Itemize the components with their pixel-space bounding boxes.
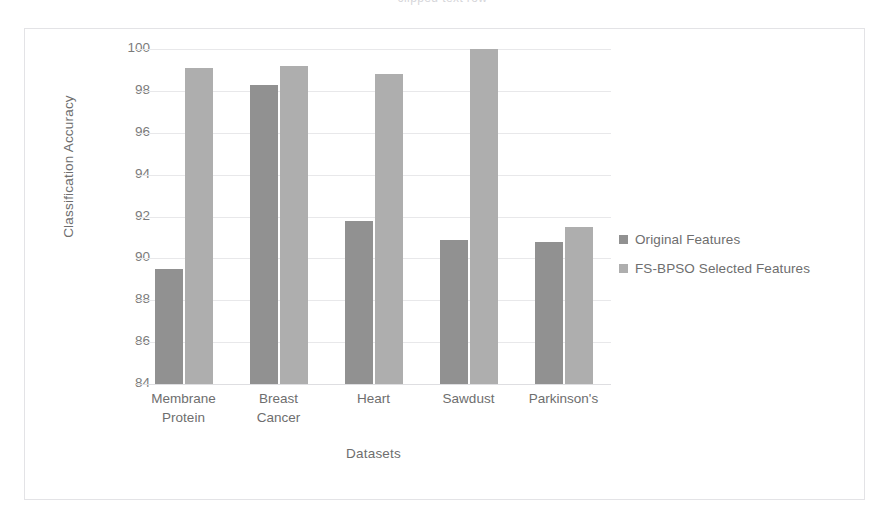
bar[interactable] [375, 74, 403, 384]
bar[interactable] [280, 66, 308, 384]
bar-group [326, 49, 421, 384]
bar[interactable] [440, 240, 468, 384]
legend-item[interactable]: Original Features [619, 225, 859, 254]
bar-group [421, 49, 516, 384]
bar[interactable] [470, 49, 498, 384]
bar[interactable] [345, 221, 373, 384]
x-axis-tick-label: Heart [326, 389, 421, 408]
gridline [136, 384, 611, 385]
plot-area [136, 49, 611, 384]
bar-group [516, 49, 611, 384]
bar[interactable] [250, 85, 278, 384]
bar-group [231, 49, 326, 384]
bar[interactable] [155, 269, 183, 384]
legend-swatch-icon [619, 264, 628, 273]
legend-label: Original Features [635, 232, 740, 247]
x-axis-tick-label: Membrane Protein [136, 389, 231, 427]
y-axis-title: Classification Accuracy [61, 62, 76, 272]
chart-legend: Original FeaturesFS-BPSO Selected Featur… [619, 225, 859, 283]
legend-swatch-icon [619, 235, 628, 244]
x-axis-tick-labels: Membrane ProteinBreast CancerHeartSawdus… [136, 389, 611, 433]
clipped-top-caption-text: clipped text row [398, 0, 488, 3]
x-axis-title: Datasets [136, 446, 611, 461]
x-axis-tick-label: Parkinson's [516, 389, 611, 408]
bar[interactable] [565, 227, 593, 384]
bar[interactable] [535, 242, 563, 384]
clipped-top-caption: clipped text row [0, 0, 885, 14]
x-axis-tick-label: Breast Cancer [231, 389, 326, 427]
legend-label: FS-BPSO Selected Features [635, 261, 810, 276]
legend-item[interactable]: FS-BPSO Selected Features [619, 254, 859, 283]
bar-group [136, 49, 231, 384]
bar[interactable] [185, 68, 213, 384]
chart-frame: Classification Accuracy 1009896949290888… [24, 28, 865, 500]
x-axis-tick-label: Sawdust [421, 389, 516, 408]
